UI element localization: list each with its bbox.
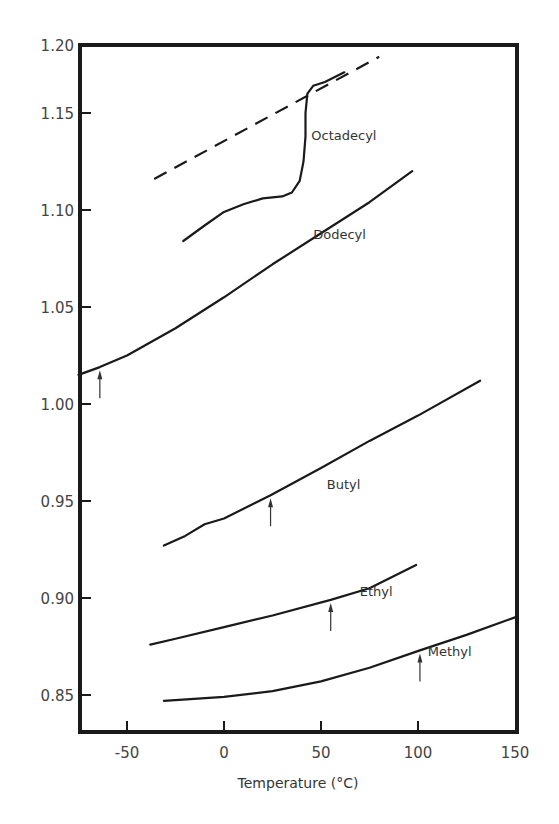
arrow-icon: [97, 370, 102, 398]
y-tick-label: 1.15: [41, 105, 74, 123]
y-tick-label: 1.10: [41, 202, 74, 220]
series-line-octadecyl: [183, 72, 344, 241]
x-axis-title: Temperature (°C): [237, 775, 359, 791]
series-label-methyl: Methyl: [428, 644, 472, 659]
series-label-octadecyl: Octadecyl: [311, 128, 376, 143]
y-tick-label: 0.95: [41, 493, 74, 511]
series-label-ethyl: Ethyl: [360, 584, 393, 599]
arrow-icon: [328, 603, 333, 631]
arrow-icon: [268, 498, 273, 526]
chart-canvas: -50050100150 0.850.900.951.001.051.101.1…: [0, 0, 559, 824]
x-tick-label: 50: [311, 744, 330, 762]
series-layer: [79, 57, 516, 701]
y-tick-label: 0.85: [41, 687, 74, 705]
plot-border: [80, 45, 517, 732]
series-line-ethyl: [150, 565, 416, 645]
plot-frame: [80, 45, 517, 732]
series-labels: OctadecylDodecylButylEthylMethyl: [311, 128, 471, 659]
y-axis: 0.850.900.951.001.051.101.151.20: [41, 37, 91, 705]
x-tick-label: -50: [115, 744, 140, 762]
series-label-butyl: Butyl: [327, 477, 361, 492]
y-tick-label: 1.20: [41, 37, 74, 55]
y-tick-label: 1.00: [41, 396, 74, 414]
series-label-dodecyl: Dodecyl: [313, 227, 366, 242]
y-tick-label: 1.05: [41, 299, 74, 317]
x-tick-label: 150: [501, 744, 530, 762]
arrow-icon: [417, 653, 422, 681]
y-tick-label: 0.90: [41, 590, 74, 608]
transition-arrows: [97, 370, 422, 681]
x-tick-label: 0: [219, 744, 229, 762]
series-line-butyl: [164, 381, 480, 546]
x-tick-label: 100: [404, 744, 433, 762]
series-line-octadecyl-extrapolated: [154, 57, 379, 179]
series-line-dodecyl: [79, 171, 413, 375]
x-axis: -50050100150: [115, 721, 530, 762]
